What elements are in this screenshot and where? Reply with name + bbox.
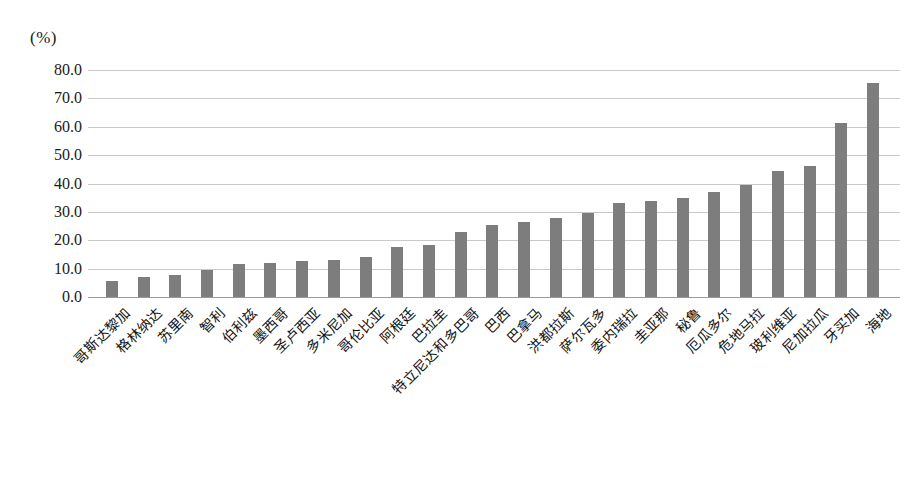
bar	[804, 166, 816, 297]
y-tick-label: 70.0	[4, 89, 82, 107]
y-tick-label: 20.0	[4, 231, 82, 249]
y-tick-label: 30.0	[4, 203, 82, 221]
y-tick-label: 80.0	[4, 61, 82, 79]
y-tick-label: 0.0	[4, 288, 82, 306]
bar	[391, 247, 403, 298]
bar	[264, 263, 276, 297]
bar	[138, 277, 150, 297]
bar	[677, 198, 689, 297]
bar	[740, 185, 752, 297]
bar	[518, 222, 530, 297]
y-axis-tick-labels: 80.070.060.050.040.030.020.010.00.0	[0, 0, 82, 484]
bar	[613, 203, 625, 297]
bar	[423, 245, 435, 297]
x-axis-category-labels: 哥斯达黎加格林纳达苏里南智利伯利兹墨西哥圣卢西亚多米尼加哥伦比亚阿根廷巴拉圭特立…	[88, 300, 900, 484]
x-tick-label: 圭亚那	[628, 302, 673, 347]
bar	[201, 270, 213, 297]
x-axis-baseline	[88, 297, 900, 298]
bar	[106, 281, 118, 297]
y-tick-label: 40.0	[4, 175, 82, 193]
bar	[169, 275, 181, 297]
bar	[867, 83, 879, 297]
y-tick-label: 60.0	[4, 118, 82, 136]
bar	[550, 218, 562, 297]
bar	[233, 264, 245, 297]
bar-series	[88, 70, 900, 297]
bar	[486, 225, 498, 297]
bar	[296, 261, 308, 297]
y-tick-label: 50.0	[4, 146, 82, 164]
bar	[360, 257, 372, 297]
bar	[328, 260, 340, 297]
y-tick-label: 10.0	[4, 260, 82, 278]
bar	[708, 192, 720, 297]
bar	[772, 171, 784, 297]
bar	[455, 232, 467, 297]
bar	[835, 123, 847, 298]
bar	[645, 201, 657, 297]
bar-chart: (%) 80.070.060.050.040.030.020.010.00.0 …	[0, 0, 915, 484]
x-tick-label: 海地	[861, 302, 896, 337]
bar	[582, 213, 594, 297]
